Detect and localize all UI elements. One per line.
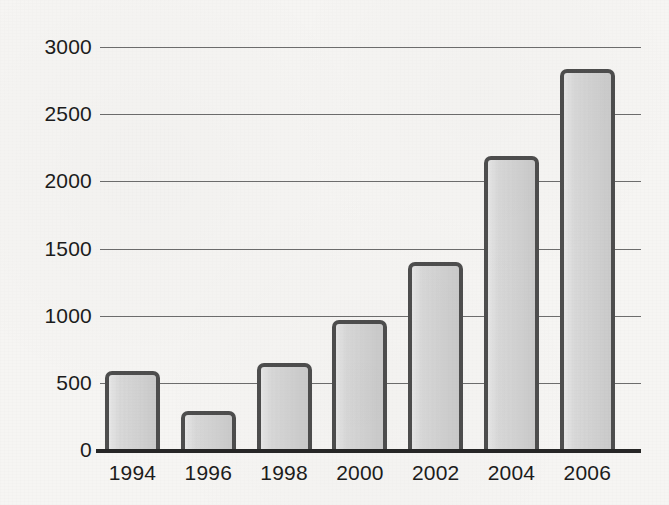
y-tick-label: 1000 <box>6 304 92 328</box>
bar-1994 <box>105 371 160 450</box>
x-tick-label: 1998 <box>245 461 324 485</box>
y-tick-label: 2000 <box>6 169 92 193</box>
x-axis-line <box>96 449 641 453</box>
bar-1998 <box>257 363 312 450</box>
y-tick-label: 3000 <box>6 35 92 59</box>
x-tick-label: 2002 <box>396 461 475 485</box>
y-tick-label: 1500 <box>6 237 92 261</box>
y-tick-label: 500 <box>6 371 92 395</box>
x-tick-label: 2006 <box>548 461 627 485</box>
x-tick-label: 2000 <box>320 461 399 485</box>
bar-2006 <box>560 69 615 451</box>
y-axis: 050010001500200025003000 <box>0 0 92 505</box>
x-tick-label: 2004 <box>472 461 551 485</box>
x-tick-label: 1996 <box>169 461 248 485</box>
bar-chart: 050010001500200025003000 199419961998200… <box>0 0 669 505</box>
y-tick-label: 2500 <box>6 102 92 126</box>
bar-2000 <box>332 320 387 450</box>
bar-1996 <box>181 411 236 450</box>
plot-area <box>100 47 641 450</box>
bar-2004 <box>484 156 539 450</box>
x-tick-label: 1994 <box>93 461 172 485</box>
gridline <box>100 47 641 48</box>
y-tick-label: 0 <box>6 438 92 462</box>
bar-2002 <box>408 262 463 450</box>
